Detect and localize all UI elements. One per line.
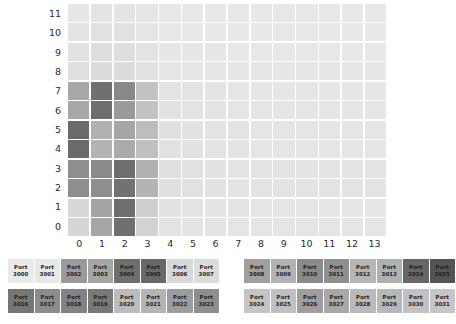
heatmap-cell[interactable] [182, 140, 203, 158]
heatmap-cell[interactable] [228, 43, 249, 61]
heatmap-cell[interactable] [319, 218, 340, 236]
port-legend-chip[interactable]: Port3020 [114, 289, 140, 313]
heatmap-cell[interactable] [342, 121, 363, 139]
heatmap-cell[interactable] [228, 160, 249, 178]
heatmap-cell[interactable] [342, 160, 363, 178]
port-legend-chip[interactable]: Port3006 [167, 259, 193, 283]
heatmap-cell[interactable] [68, 140, 89, 158]
heatmap-cell[interactable] [251, 82, 272, 100]
heatmap-cell[interactable] [365, 62, 386, 80]
port-legend-chip[interactable]: Port3014 [403, 259, 429, 283]
heatmap-cell[interactable] [182, 43, 203, 61]
heatmap-cell[interactable] [182, 218, 203, 236]
port-legend-chip[interactable]: Port3017 [35, 289, 61, 313]
heatmap-cell[interactable] [68, 218, 89, 236]
port-legend-chip[interactable]: Port3025 [271, 289, 297, 313]
heatmap-cell[interactable] [114, 62, 135, 80]
heatmap-cell[interactable] [228, 82, 249, 100]
port-legend-chip[interactable]: Port3007 [194, 259, 220, 283]
heatmap-cell[interactable] [114, 140, 135, 158]
port-legend-chip[interactable]: Port3005 [141, 259, 167, 283]
heatmap-cell[interactable] [365, 82, 386, 100]
heatmap-cell[interactable] [251, 218, 272, 236]
heatmap-cell[interactable] [114, 4, 135, 22]
heatmap-cell[interactable] [296, 160, 317, 178]
heatmap-cell[interactable] [91, 199, 112, 217]
heatmap-cell[interactable] [136, 199, 157, 217]
heatmap-cell[interactable] [205, 43, 226, 61]
heatmap-cell[interactable] [273, 160, 294, 178]
heatmap-cell[interactable] [342, 82, 363, 100]
heatmap-cell[interactable] [182, 101, 203, 119]
heatmap-cell[interactable] [251, 23, 272, 41]
heatmap-cell[interactable] [68, 4, 89, 22]
heatmap-cell[interactable] [91, 179, 112, 197]
heatmap-cell[interactable] [136, 140, 157, 158]
heatmap-cell[interactable] [91, 23, 112, 41]
heatmap-cell[interactable] [365, 140, 386, 158]
heatmap-cell[interactable] [228, 199, 249, 217]
heatmap-cell[interactable] [319, 179, 340, 197]
heatmap-cell[interactable] [296, 218, 317, 236]
heatmap-cell[interactable] [296, 82, 317, 100]
port-legend-chip[interactable]: Port3015 [430, 259, 456, 283]
heatmap-cell[interactable] [251, 140, 272, 158]
heatmap-cell[interactable] [114, 218, 135, 236]
heatmap-cell[interactable] [205, 160, 226, 178]
port-legend-chip[interactable]: Port3026 [297, 289, 323, 313]
heatmap-cell[interactable] [205, 23, 226, 41]
heatmap-cell[interactable] [68, 101, 89, 119]
heatmap-cell[interactable] [182, 62, 203, 80]
port-legend-chip[interactable]: Port3028 [350, 289, 376, 313]
heatmap-cell[interactable] [182, 121, 203, 139]
heatmap-cell[interactable] [68, 23, 89, 41]
port-legend-chip[interactable]: Port3019 [88, 289, 114, 313]
heatmap-cell[interactable] [319, 140, 340, 158]
heatmap-cell[interactable] [296, 140, 317, 158]
heatmap-cell[interactable] [136, 218, 157, 236]
heatmap-cell[interactable] [136, 101, 157, 119]
heatmap-cell[interactable] [365, 101, 386, 119]
heatmap-cell[interactable] [319, 62, 340, 80]
heatmap-cell[interactable] [159, 218, 180, 236]
heatmap-cell[interactable] [159, 160, 180, 178]
heatmap-cell[interactable] [296, 62, 317, 80]
heatmap-cell[interactable] [273, 82, 294, 100]
heatmap-cell[interactable] [68, 160, 89, 178]
heatmap-cell[interactable] [319, 160, 340, 178]
heatmap-cell[interactable] [91, 140, 112, 158]
heatmap-cell[interactable] [114, 179, 135, 197]
heatmap-cell[interactable] [251, 160, 272, 178]
heatmap-cell[interactable] [205, 82, 226, 100]
port-legend-chip[interactable]: Port3021 [141, 289, 167, 313]
heatmap-cell[interactable] [251, 62, 272, 80]
heatmap-cell[interactable] [296, 23, 317, 41]
heatmap-cell[interactable] [159, 62, 180, 80]
heatmap-cell[interactable] [296, 199, 317, 217]
heatmap-cell[interactable] [296, 43, 317, 61]
heatmap-cell[interactable] [342, 179, 363, 197]
port-legend-chip[interactable]: Port3010 [297, 259, 323, 283]
heatmap-cell[interactable] [273, 179, 294, 197]
heatmap-cell[interactable] [273, 23, 294, 41]
heatmap-cell[interactable] [205, 101, 226, 119]
heatmap-cell[interactable] [182, 82, 203, 100]
heatmap-cell[interactable] [296, 121, 317, 139]
heatmap-cell[interactable] [136, 62, 157, 80]
heatmap-cell[interactable] [273, 62, 294, 80]
heatmap-cell[interactable] [114, 101, 135, 119]
heatmap-cell[interactable] [159, 4, 180, 22]
heatmap-cell[interactable] [114, 160, 135, 178]
port-legend-chip[interactable]: Port3009 [271, 259, 297, 283]
heatmap-cell[interactable] [68, 179, 89, 197]
heatmap-cell[interactable] [342, 218, 363, 236]
heatmap-cell[interactable] [68, 121, 89, 139]
heatmap-cell[interactable] [228, 4, 249, 22]
heatmap-cell[interactable] [205, 199, 226, 217]
heatmap-cell[interactable] [342, 43, 363, 61]
heatmap-cell[interactable] [91, 4, 112, 22]
heatmap-cell[interactable] [342, 199, 363, 217]
heatmap-cell[interactable] [91, 43, 112, 61]
heatmap-cell[interactable] [136, 4, 157, 22]
heatmap-cell[interactable] [159, 23, 180, 41]
